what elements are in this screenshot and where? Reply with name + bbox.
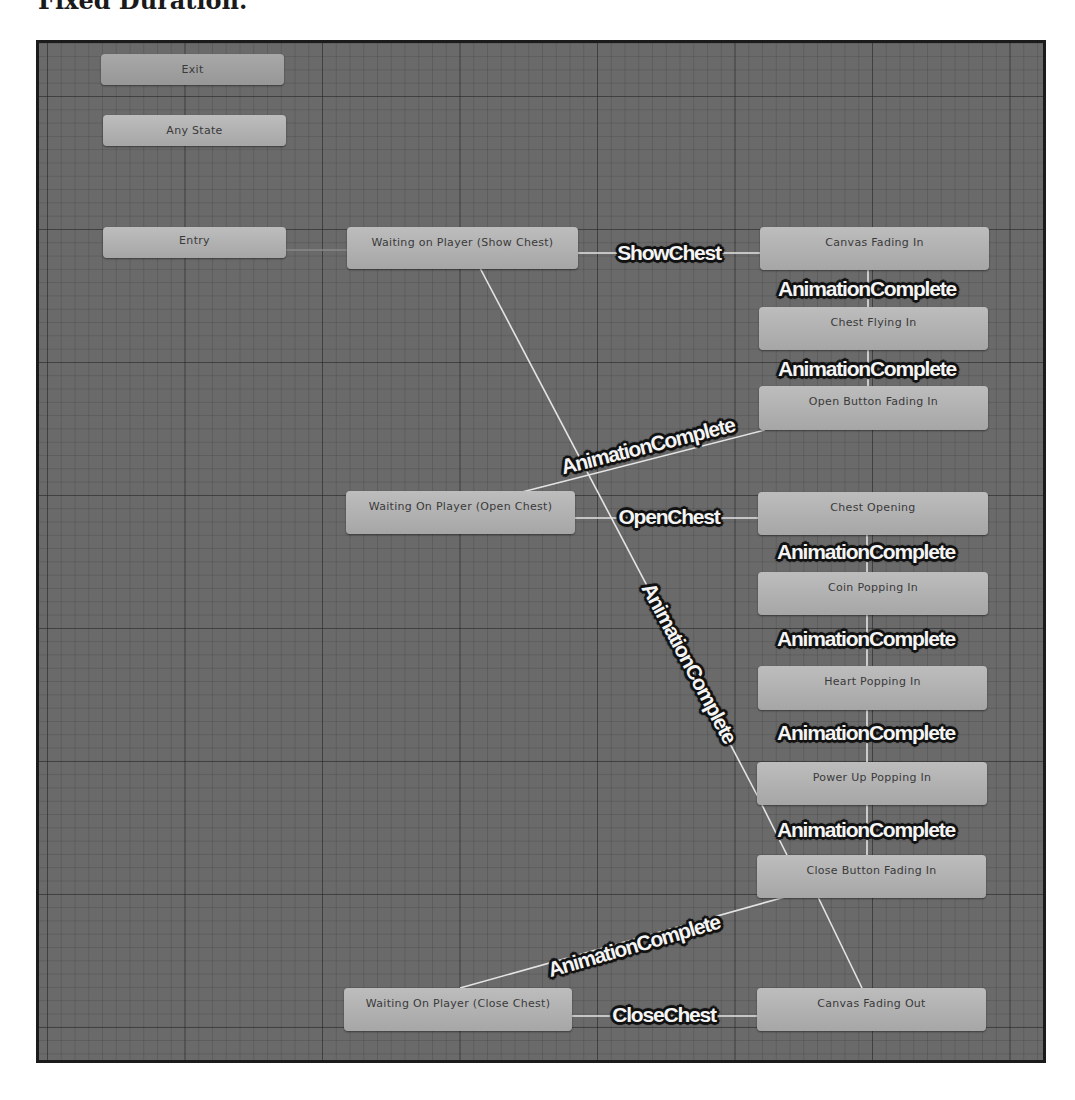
- state-chest-flying-in[interactable]: Chest Flying In: [759, 307, 988, 350]
- state-any-state[interactable]: Any State: [103, 115, 286, 146]
- transition-label-heart-to-power-up[interactable]: AnimationComplete: [777, 721, 955, 745]
- state-entry[interactable]: Entry: [103, 227, 286, 258]
- state-waiting-close-chest[interactable]: Waiting On Player (Close Chest): [344, 988, 572, 1031]
- transition-label-power-up-to-close-button[interactable]: AnimationComplete: [777, 818, 955, 842]
- transition-label-coin-to-heart[interactable]: AnimationComplete: [777, 627, 955, 651]
- state-exit[interactable]: Exit: [101, 54, 284, 85]
- transition-label-canvas-to-chest-flying[interactable]: AnimationComplete: [778, 277, 956, 301]
- page-heading: Fixed Duration.: [38, 0, 247, 15]
- state-open-button-fading-in[interactable]: Open Button Fading In: [759, 386, 988, 430]
- transition-label-close-chest[interactable]: CloseChest: [612, 1003, 716, 1027]
- state-coin-popping-in[interactable]: Coin Popping In: [758, 572, 988, 615]
- state-chest-opening[interactable]: Chest Opening: [758, 492, 988, 535]
- state-heart-popping-in[interactable]: Heart Popping In: [758, 666, 987, 710]
- state-close-button-fading-in[interactable]: Close Button Fading In: [757, 855, 986, 898]
- transition-label-chest-opening-to-coin[interactable]: AnimationComplete: [777, 540, 955, 564]
- state-waiting-open-chest[interactable]: Waiting On Player (Open Chest): [346, 491, 575, 534]
- transition-label-chest-flying-to-open-button[interactable]: AnimationComplete: [778, 357, 956, 381]
- state-waiting-show-chest[interactable]: Waiting on Player (Show Chest): [347, 227, 578, 269]
- transition-label-show-chest[interactable]: ShowChest: [617, 241, 721, 265]
- transition-label-open-chest[interactable]: OpenChest: [618, 505, 719, 529]
- state-canvas-fading-in[interactable]: Canvas Fading In: [760, 227, 989, 270]
- state-canvas-fading-out[interactable]: Canvas Fading Out: [757, 988, 986, 1031]
- state-power-up-popping-in[interactable]: Power Up Popping In: [757, 762, 987, 805]
